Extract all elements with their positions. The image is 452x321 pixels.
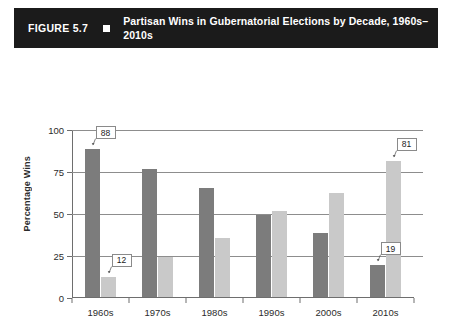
bar-republican-2000s	[329, 193, 344, 297]
bar-republican-1990s	[272, 211, 287, 297]
y-axis-title: Percentage Wins	[22, 156, 36, 231]
gridline	[72, 214, 414, 215]
figure-header-banner: FIGURE 5.7 Partisan Wins in Gubernatoria…	[14, 8, 438, 48]
y-tick-label: 100	[48, 125, 64, 136]
y-tick-mark	[67, 214, 72, 215]
x-tick-label: 1960s	[88, 307, 114, 318]
bar-democratic-1990s	[256, 215, 271, 297]
bar-democratic-1960s	[85, 149, 100, 297]
x-tick-label: 1990s	[259, 307, 285, 318]
x-tick-mark	[129, 298, 130, 303]
bar-republican-1980s	[215, 238, 230, 297]
y-tick-label: 0	[59, 293, 64, 304]
figure-title: Partisan Wins in Gubernatorial Elections…	[123, 14, 438, 42]
x-tick-mark	[300, 298, 301, 303]
figure-body: Percentage Wins 02550751001960s1970s1980…	[0, 52, 452, 300]
bar-democratic-2000s	[313, 233, 328, 297]
bar-republican-1960s	[101, 277, 116, 297]
x-tick-label: 2010s	[373, 307, 399, 318]
x-tick-mark	[72, 298, 73, 303]
x-tick-label: 1970s	[145, 307, 171, 318]
x-tick-mark	[414, 298, 415, 303]
x-tick-label: 2000s	[316, 307, 342, 318]
callout-arrow-icon	[376, 253, 385, 264]
y-tick-label: 50	[53, 209, 64, 220]
gridline-end-tick	[414, 172, 423, 173]
gridline	[72, 130, 414, 131]
gridline-end-tick	[414, 256, 423, 257]
x-tick-mark	[357, 298, 358, 303]
gridline-end-tick	[414, 214, 423, 215]
gridline	[72, 172, 414, 173]
x-tick-mark	[243, 298, 244, 303]
y-tick-mark	[67, 256, 72, 257]
callout-arrow-icon	[107, 265, 116, 276]
x-tick-mark	[186, 298, 187, 303]
chart-plot-area: 02550751001960s1970s1980s1990s2000s2010s…	[72, 130, 414, 298]
callout-arrow-icon	[91, 137, 100, 148]
callout-arrow-icon	[392, 149, 401, 160]
gridline-end-tick	[414, 130, 423, 131]
y-tick-label: 75	[53, 167, 64, 178]
bar-republican-2010s	[386, 161, 401, 297]
y-tick-label: 25	[53, 251, 64, 262]
bar-democratic-1970s	[142, 169, 157, 297]
figure-number: FIGURE 5.7	[28, 22, 88, 34]
bar-democratic-1980s	[199, 188, 214, 297]
bar-republican-1970s	[158, 257, 173, 297]
y-tick-mark	[67, 172, 72, 173]
y-tick-mark	[67, 130, 72, 131]
x-tick-label: 1980s	[202, 307, 228, 318]
filled-square-icon	[103, 25, 110, 32]
bar-democratic-2010s	[370, 265, 385, 297]
